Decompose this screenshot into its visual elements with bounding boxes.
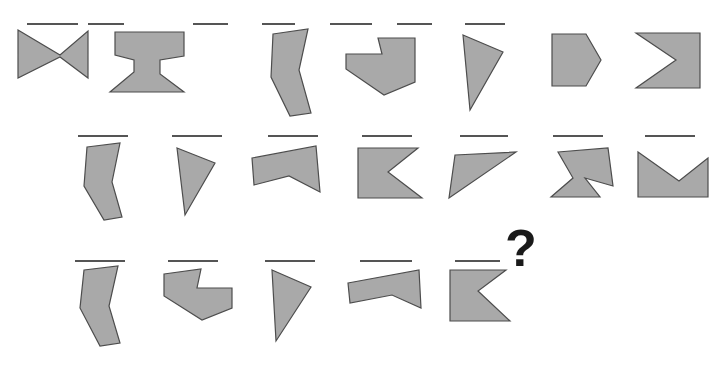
cell-r3c5-chevron-left-solid[interactable] xyxy=(450,270,510,321)
cell-r2c2[interactable] xyxy=(172,136,222,215)
cell-r3c1[interactable] xyxy=(75,261,125,346)
cell-r2c5-thin-diagonal-sliver[interactable] xyxy=(449,152,516,198)
missing-cell-question-mark: ? xyxy=(505,219,537,277)
puzzle-canvas: ? xyxy=(0,0,721,365)
cell-r1c6-pentagon-rounded-right[interactable] xyxy=(552,34,601,86)
cell-r2c6-trapezoid-with-notch[interactable] xyxy=(551,148,613,197)
cell-r2c3[interactable] xyxy=(252,136,320,192)
row-1 xyxy=(18,24,700,116)
row-3 xyxy=(75,261,510,346)
cell-r3c1-bent-vertical-bar[interactable] xyxy=(80,266,120,346)
cell-r1c3[interactable] xyxy=(193,24,311,116)
cell-r2c6[interactable] xyxy=(551,136,613,197)
cell-r2c1[interactable] xyxy=(78,136,128,220)
cell-r2c1-bent-vertical-bar[interactable] xyxy=(84,143,122,220)
cell-r2c7-envelope-v-notch[interactable] xyxy=(638,152,708,197)
cell-r3c4[interactable] xyxy=(348,261,421,308)
cell-r3c4-flat-chevron-up[interactable] xyxy=(348,270,421,308)
cell-r2c5[interactable] xyxy=(449,136,516,198)
cell-r2c3-flat-chevron-up[interactable] xyxy=(252,146,320,192)
cell-r2c4-chevron-left-solid[interactable] xyxy=(358,148,422,198)
cell-r1c4-notched-arrow-right[interactable] xyxy=(346,38,415,95)
cell-r1c2-i-beam-hourglass[interactable] xyxy=(110,32,184,92)
visual-analogy-puzzle: ? xyxy=(0,0,721,365)
cell-r3c3[interactable] xyxy=(265,261,315,341)
cell-r2c4[interactable] xyxy=(358,136,422,198)
cell-r1c1-bowtie-horizontal[interactable] xyxy=(18,30,88,78)
cell-r1c1[interactable] xyxy=(18,24,88,78)
cell-r2c7[interactable] xyxy=(638,136,708,197)
cell-r3c2[interactable] xyxy=(164,261,232,320)
cell-r1c3-bent-vertical-bar[interactable] xyxy=(271,29,311,116)
row-2 xyxy=(78,136,708,220)
cell-r3c5[interactable] xyxy=(450,261,510,321)
cell-r2c2-right-triangle-tall[interactable] xyxy=(177,148,215,215)
cell-r1c5-right-triangle-tall[interactable] xyxy=(463,35,503,110)
cell-r1c7-chevron-right-solid[interactable] xyxy=(636,33,700,88)
cell-r3c2-notched-arrow-left[interactable] xyxy=(164,269,232,320)
cell-r3c3-right-triangle-tall[interactable] xyxy=(272,270,311,341)
cell-r1c2[interactable] xyxy=(88,24,184,92)
